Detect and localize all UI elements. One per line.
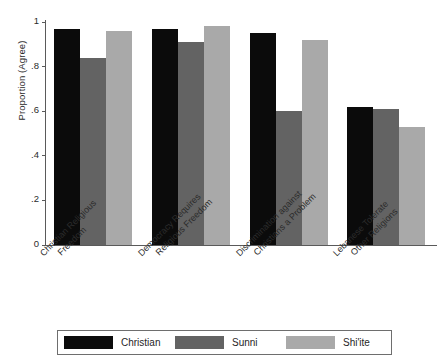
legend-label: Christian <box>121 337 160 348</box>
legend-item-christian[interactable]: Christian <box>58 336 169 349</box>
y-axis-tick-label: .6 <box>31 104 39 115</box>
legend-label: Shi'ite <box>343 337 370 348</box>
legend-swatch <box>64 336 113 349</box>
bar-shiite-2 <box>302 40 328 245</box>
bar-shiite-1 <box>204 26 230 245</box>
y-axis-tick-label: 0 <box>34 238 39 249</box>
y-axis-tick-label: .8 <box>31 60 39 71</box>
chart-legend: ChristianSunniShi'ite <box>57 330 392 355</box>
y-axis-title: Proportion (Agree) <box>16 16 27 146</box>
legend-swatch <box>175 336 224 349</box>
y-axis-tick-label: 1 <box>34 15 39 26</box>
bar-chart-figure: Proportion (Agree) 0.2.4.6.81 Christian … <box>0 0 443 364</box>
y-axis-tick-label: .2 <box>31 193 39 204</box>
legend-label: Sunni <box>232 337 258 348</box>
legend-item-sunni[interactable]: Sunni <box>169 336 280 349</box>
legend-item-shiite[interactable]: Shi'ite <box>280 336 391 349</box>
legend-swatch <box>286 336 335 349</box>
y-axis-tick-label: .4 <box>31 149 39 160</box>
bar-shiite-0 <box>106 31 132 245</box>
